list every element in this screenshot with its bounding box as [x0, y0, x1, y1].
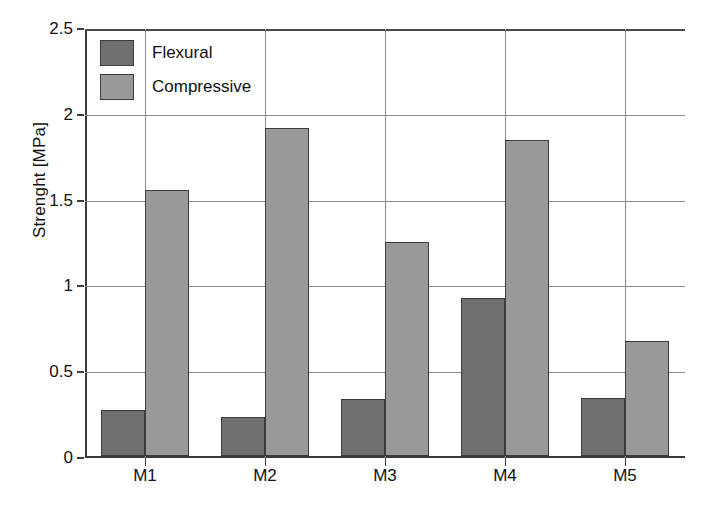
bar-flexural-m3 [341, 399, 385, 456]
legend-swatch-icon [100, 74, 134, 100]
y-tick-label: 2.5 [13, 19, 73, 39]
y-tick-mark [77, 28, 84, 30]
x-tick-label: M5 [580, 466, 670, 486]
x-tick-label: M4 [460, 466, 550, 486]
bar-compressive-m4 [505, 140, 549, 456]
legend-item-compressive: Compressive [100, 70, 300, 104]
x-tick-mark [625, 458, 626, 466]
legend-label: Flexural [152, 43, 212, 63]
bar-flexural-m4 [461, 298, 505, 456]
bar-compressive-m3 [385, 242, 429, 457]
x-tick-mark [505, 458, 506, 466]
x-tick-mark [145, 458, 146, 466]
y-tick-mark [77, 371, 84, 373]
y-tick-label: 0.5 [13, 362, 73, 382]
legend-swatch-icon [100, 40, 134, 66]
y-tick-mark [77, 457, 84, 459]
x-tick-label: M3 [340, 466, 430, 486]
bar-flexural-m5 [581, 398, 625, 456]
bar-compressive-m1 [145, 190, 189, 456]
y-tick-label: 2 [13, 105, 73, 125]
legend-label: Compressive [152, 77, 251, 97]
bar-compressive-m5 [625, 341, 669, 456]
y-tick-mark [77, 200, 84, 202]
legend-item-flexural: Flexural [100, 36, 300, 70]
bar-chart: Strenght [MPa] 00.511.522.5 M1M2M3M4M5 F… [0, 0, 709, 507]
y-axis-title: Strenght [MPa] [30, 50, 50, 310]
y-axis-line [85, 29, 87, 458]
x-tick-label: M1 [100, 466, 190, 486]
y-tick-mark [77, 285, 84, 287]
y-tick-label: 1 [13, 276, 73, 296]
y-tick-label: 0 [13, 448, 73, 468]
bar-flexural-m2 [221, 417, 265, 456]
legend: Flexural Compressive [100, 36, 300, 104]
bar-flexural-m1 [101, 410, 145, 456]
x-tick-mark [265, 458, 266, 466]
bar-compressive-m2 [265, 128, 309, 456]
x-tick-label: M2 [220, 466, 310, 486]
x-tick-mark [385, 458, 386, 466]
y-tick-mark [77, 114, 84, 116]
y-tick-label: 1.5 [13, 191, 73, 211]
